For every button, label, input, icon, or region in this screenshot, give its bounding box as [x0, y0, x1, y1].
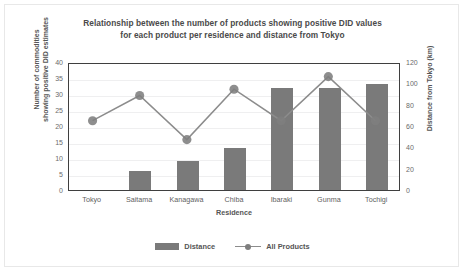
legend-line-swatch-icon: [235, 243, 261, 250]
y-axis-primary-title-line-1: Number of commodities: [33, 4, 42, 136]
y-axis-primary-tick-label: 15: [37, 139, 63, 146]
chart-legend: Distance All Products: [5, 242, 460, 251]
data-point-marker: [324, 72, 333, 81]
y-axis-secondary-tick-label: 40: [406, 144, 428, 151]
y-axis-secondary-tick-label: 100: [406, 80, 428, 87]
legend-label-all-products: All Products: [266, 242, 310, 251]
x-axis-tick-label: Tochigi: [353, 195, 400, 204]
y-axis-primary-tick-label: 20: [37, 123, 63, 130]
x-axis-title: Residence: [68, 208, 400, 217]
x-axis-tick-label: Tokyo: [68, 195, 115, 204]
legend-label-distance: Distance: [184, 242, 215, 251]
chart-title-line-2: for each product per residence and dista…: [5, 29, 460, 41]
data-point-marker: [229, 85, 238, 94]
legend-bar-swatch-icon: [155, 243, 179, 250]
chart-title-line-1: Relationship between the number of produ…: [5, 17, 460, 29]
y-axis-secondary-tick-label: 20: [406, 166, 428, 173]
data-point-marker: [135, 91, 144, 100]
data-point-marker: [88, 116, 97, 125]
y-axis-primary-tick-label: 10: [37, 155, 63, 162]
x-axis-tick-label: Ibaraki: [258, 195, 305, 204]
x-axis-tick-label: Chiba: [210, 195, 257, 204]
chart-frame: Relationship between the number of produ…: [4, 4, 459, 267]
x-axis-tick-label: Saitama: [115, 195, 162, 204]
y-axis-secondary-tick-label: 0: [406, 187, 428, 194]
data-point-marker: [182, 135, 191, 144]
y-axis-secondary-tick-label: 80: [406, 102, 428, 109]
y-axis-primary-tick-label: 5: [37, 171, 63, 178]
x-axis-tick-label: Gunma: [305, 195, 352, 204]
y-axis-primary-title: Number of commodities showing positive D…: [33, 4, 50, 136]
chart-title: Relationship between the number of produ…: [5, 17, 460, 41]
y-axis-primary-tick-label: 40: [37, 59, 63, 66]
legend-item-distance: Distance: [155, 242, 215, 251]
plot-area: [68, 63, 400, 191]
y-axis-secondary-tick-label: 60: [406, 123, 428, 130]
y-axis-primary-tick-label: 30: [37, 91, 63, 98]
y-axis-primary-tick-label: 35: [37, 75, 63, 82]
data-point-marker: [277, 116, 286, 125]
y-axis-primary-tick-label: 25: [37, 107, 63, 114]
data-point-marker: [371, 116, 380, 125]
x-axis-tick-label: Kanagawa: [163, 195, 210, 204]
y-axis-primary-title-line-2: showing positive DID estimates: [41, 4, 50, 136]
y-axis-primary-tick-label: 0: [37, 187, 63, 194]
legend-item-all-products: All Products: [235, 242, 310, 251]
y-axis-secondary-tick-label: 120: [406, 59, 428, 66]
line-series-all-products: [69, 64, 399, 190]
